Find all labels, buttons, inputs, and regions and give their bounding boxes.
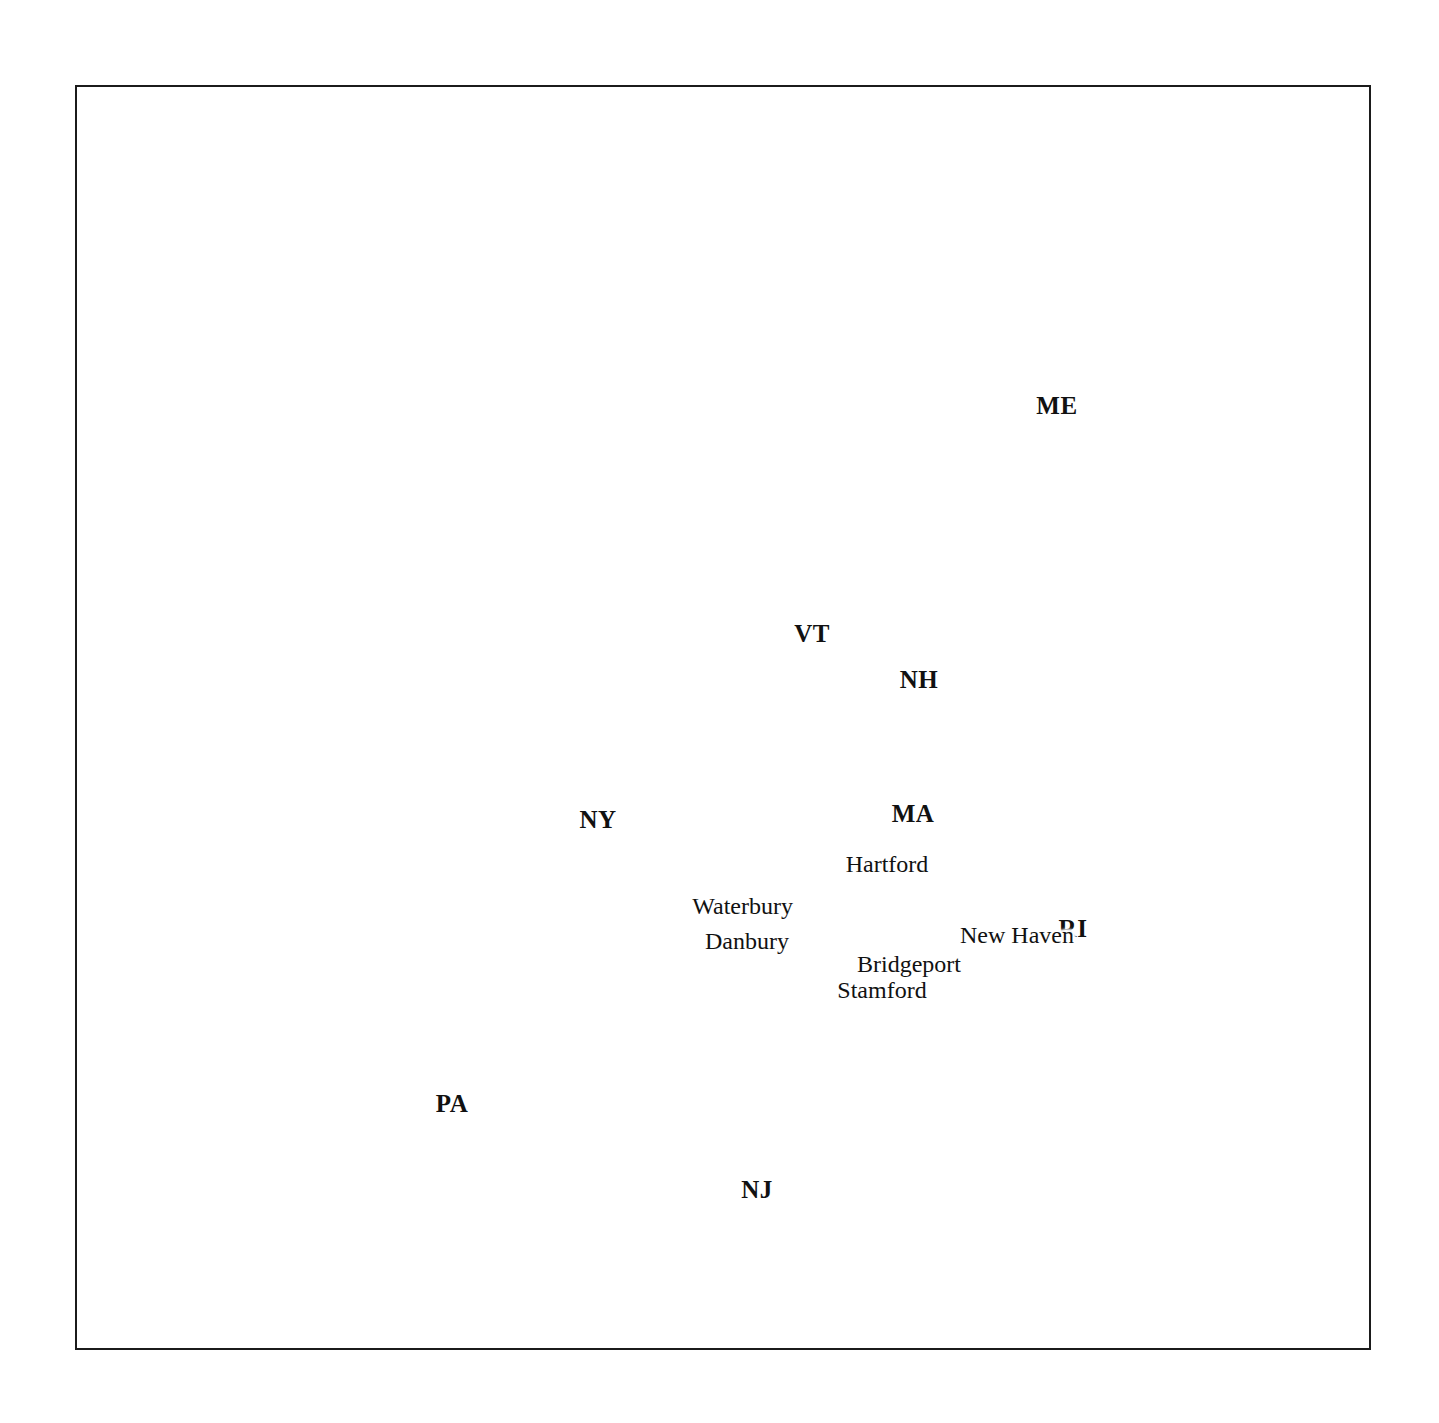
map-border-frame xyxy=(75,85,1371,1350)
